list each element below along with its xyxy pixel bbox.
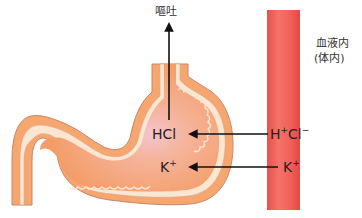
vomit-label: 嘔吐 <box>155 6 177 17</box>
stomach-k-label: K+ <box>160 160 177 174</box>
blood-vessel <box>267 10 300 210</box>
blood-label-line1: 血液内 <box>316 38 349 49</box>
stomach-hcl-label: HCl <box>152 127 176 141</box>
diagram-canvas: 嘔吐 血液内 (体内) HCl K+ H+Cl− K+ <box>0 0 362 218</box>
blood-label-line2: (体内) <box>314 53 345 64</box>
blood-hcl-label: H+Cl− <box>270 127 309 141</box>
diagram-graphics <box>0 0 362 218</box>
blood-k-label: K+ <box>283 160 300 174</box>
